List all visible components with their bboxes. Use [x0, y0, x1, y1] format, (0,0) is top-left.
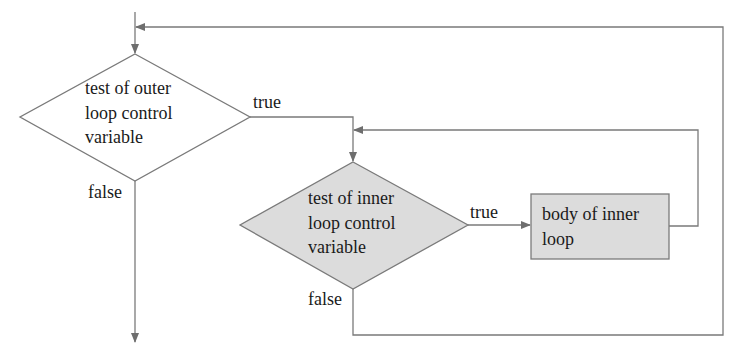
outer-loop-back-arrow — [136, 27, 723, 335]
inner-test-line-3: variable — [308, 235, 396, 260]
outer-test-line-3: variable — [85, 125, 173, 150]
inner-body-text: body of inner loop — [542, 202, 639, 251]
inner-test-text: test of inner loop control variable — [308, 186, 396, 260]
inner-body-line-2: loop — [542, 227, 639, 252]
inner-test-line-2: loop control — [308, 211, 396, 236]
inner-false-label: false — [308, 287, 342, 311]
inner-true-label: true — [470, 200, 498, 224]
outer-test-line-1: test of outer — [85, 76, 173, 101]
inner-test-line-1: test of inner — [308, 186, 396, 211]
outer-test-line-2: loop control — [85, 101, 173, 126]
outer-test-text: test of outer loop control variable — [85, 76, 173, 150]
outer-false-label: false — [88, 180, 122, 204]
outer-true-arrow — [250, 117, 353, 161]
outer-true-label: true — [253, 90, 281, 114]
inner-body-line-1: body of inner — [542, 202, 639, 227]
flowchart-canvas — [0, 0, 742, 358]
